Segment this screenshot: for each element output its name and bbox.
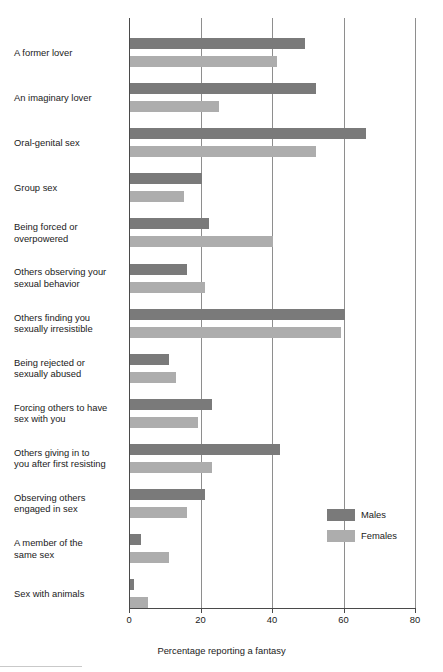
x-tick-label: 60 [329,614,359,625]
bar-females [130,327,341,338]
category-label-line: overpowered [14,233,126,245]
category-label-line: sex with you [14,413,126,425]
category-label: Others giving in toyou after first resis… [14,447,126,470]
x-tick-label: 40 [257,614,287,625]
category-label-line: Sex with animals [14,588,126,600]
bar-females [130,462,212,473]
category-label-line: sexual behavior [14,278,126,290]
category-label-line: Others finding you [14,312,126,324]
category-label-line: you after first resisting [14,458,126,470]
bar-females [130,146,316,157]
bar-males [130,399,212,410]
bar-females [130,56,277,67]
category-label-line: An imaginary lover [14,92,126,104]
category-label: Sex with animals [14,588,126,600]
bar-chart: A former loverAn imaginary loverOral-gen… [0,0,443,672]
category-label-line: sexually abused [14,368,126,380]
bar-males [130,489,205,500]
tick-0 [129,609,130,613]
category-label-line: Others giving in to [14,447,126,459]
bar-females [130,597,148,608]
tick-80 [415,609,416,613]
tick-60 [344,609,345,613]
page-rule [0,666,82,667]
category-label: A member of thesame sex [14,537,126,560]
bar-males [130,83,316,94]
bar-males [130,579,134,590]
category-label-line: Forcing others to have [14,402,126,414]
bar-males [130,354,169,365]
category-label-line: sexually irresistible [14,323,126,335]
category-label: A former lover [14,47,126,59]
category-label: An imaginary lover [14,92,126,104]
bar-males [130,444,280,455]
gridline-80 [415,18,416,609]
bar-females [130,372,176,383]
category-label-line: Oral-genital sex [14,137,126,149]
bar-males [130,534,141,545]
category-label: Oral-genital sex [14,137,126,149]
bar-females [130,236,273,247]
bar-females [130,552,169,563]
legend-label-males: Males [361,508,386,521]
tick-20 [201,609,202,613]
legend-swatch-males [327,509,355,521]
category-label: Others finding yousexually irresistible [14,312,126,335]
bar-males [130,128,366,139]
category-label-line: same sex [14,549,126,561]
category-label: Observing othersengaged in sex [14,492,126,515]
bar-males [130,173,202,184]
bar-females [130,101,219,112]
category-label: Others observing yoursexual behavior [14,266,126,289]
category-label: Being forced oroverpowered [14,221,126,244]
category-label: Group sex [14,182,126,194]
category-label-line: Group sex [14,182,126,194]
bar-males [130,38,305,49]
category-label: Forcing others to havesex with you [14,402,126,425]
tick-40 [272,609,273,613]
category-label-line: Others observing your [14,266,126,278]
bar-females [130,507,187,518]
x-tick-label: 80 [400,614,430,625]
category-label-line: A member of the [14,537,126,549]
category-label-line: Being rejected or [14,357,126,369]
category-label-line: engaged in sex [14,503,126,515]
legend-label-females: Females [361,529,397,542]
bar-females [130,282,205,293]
x-axis-title: Percentage reporting a fantasy [0,645,443,656]
category-label-line: Being forced or [14,221,126,233]
bar-males [130,309,345,320]
category-label: Being rejected orsexually abused [14,357,126,380]
category-label-line: A former lover [14,47,126,59]
legend-swatch-females [327,530,355,542]
bar-males [130,264,187,275]
bar-males [130,218,209,229]
category-label-line: Observing others [14,492,126,504]
x-tick-label: 0 [114,614,144,625]
x-tick-label: 20 [186,614,216,625]
bar-females [130,191,184,202]
bar-females [130,417,198,428]
